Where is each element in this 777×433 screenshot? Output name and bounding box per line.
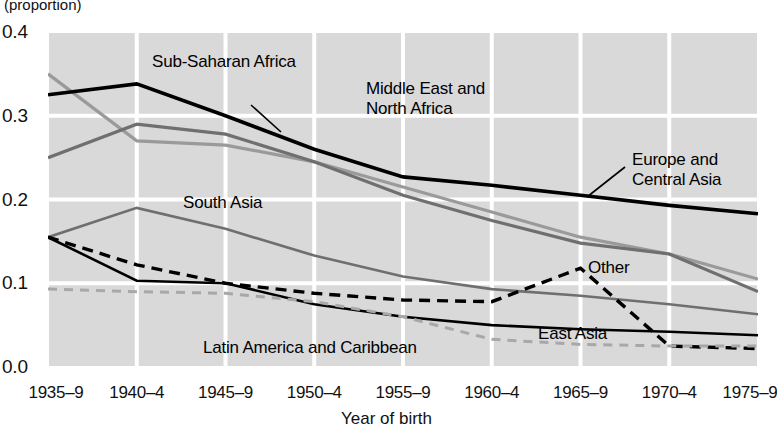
series-label-sub-saharan-africa: Sub-Saharan Africa: [152, 52, 296, 71]
series-label-middle-east-north-africa-line2: North Africa: [366, 99, 452, 118]
series-label-europe-central-asia-line2: Central Asia: [632, 170, 721, 189]
series-label-europe-central-asia-line1: Europe and: [632, 150, 718, 169]
x-axis-tick-label: 1970–4: [642, 383, 697, 403]
y-axis-tick-label: 0.4: [2, 21, 46, 43]
series-label-latin-america-caribbean: Latin America and Caribbean: [203, 338, 417, 357]
y-axis-tick-label: 0.0: [2, 356, 46, 378]
y-axis-tick-label: 0.1: [2, 272, 46, 294]
y-axis-tick-label: 0.3: [2, 105, 46, 127]
x-axis-tick-label: 1975–9: [723, 383, 777, 403]
x-axis-tick-label: 1965–9: [553, 383, 608, 403]
series-label-middle-east-north-africa-line1: Middle East and: [366, 79, 485, 98]
x-axis-tick-label: 1940–4: [109, 383, 164, 403]
y-axis-unit-label: (proportion): [4, 0, 82, 13]
x-axis-title: Year of birth: [0, 409, 773, 429]
x-axis-tick-label: 1960–4: [464, 383, 519, 403]
x-axis-tick-label: 1945–9: [198, 383, 253, 403]
x-axis-tick-label: 1955–9: [376, 383, 431, 403]
series-label-east-asia: East Asia: [538, 324, 607, 343]
y-axis-tick-label: 0.2: [2, 189, 46, 211]
series-label-south-asia: South Asia: [183, 193, 262, 212]
x-axis-tick-label: 1950–4: [287, 383, 342, 403]
x-axis-tick-label: 1935–9: [29, 383, 84, 403]
series-label-other: Other: [588, 258, 630, 277]
